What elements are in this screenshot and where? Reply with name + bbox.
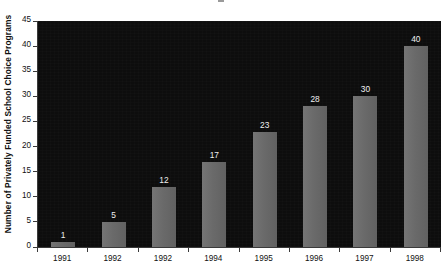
x-axis-tick-mark: [289, 248, 290, 252]
bar-value-label: 28: [310, 94, 319, 104]
y-axis-tick-label: 40: [22, 40, 31, 49]
bar-value-label: 40: [411, 34, 420, 44]
x-axis: 19911992199219941995199619971998: [37, 248, 441, 269]
bar: [51, 242, 75, 247]
bar-value-label: 12: [159, 175, 168, 185]
x-axis-tick-mark: [239, 248, 240, 252]
x-axis-tick-label: 1994: [204, 254, 222, 263]
bar-group: 1: [38, 21, 88, 247]
y-axis-tick-label: 15: [22, 166, 31, 175]
y-axis-tick-label: 45: [22, 15, 31, 24]
y-axis-tick-label: 20: [22, 141, 31, 150]
bar-group: 30: [340, 21, 390, 247]
bar-chart: Number of Privately Funded School Choice…: [0, 0, 447, 269]
x-axis-tick-label: 1992: [103, 254, 121, 263]
bar-group: 5: [88, 21, 138, 247]
y-axis-tick-label: 25: [22, 115, 31, 124]
y-axis-title-text: Number of Privately Funded School Choice…: [3, 14, 13, 233]
bar: [353, 96, 377, 247]
x-axis-tick-label: 1992: [154, 254, 172, 263]
bar-group: 40: [391, 21, 441, 247]
x-axis-tick-mark: [138, 248, 139, 252]
bar: [303, 106, 327, 247]
y-axis: 051015202530354045: [16, 21, 37, 247]
plot-area: 15121723283040: [37, 21, 441, 248]
bar-group: 28: [290, 21, 340, 247]
y-axis-tick-label: 30: [22, 90, 31, 99]
x-axis-tick-mark: [339, 248, 340, 252]
y-axis-title: Number of Privately Funded School Choice…: [0, 0, 16, 247]
x-axis-tick-label: 1996: [305, 254, 323, 263]
x-axis-tick-mark: [37, 248, 38, 252]
bar-value-label: 1: [61, 230, 66, 240]
bar-group: 12: [139, 21, 189, 247]
x-axis-tick-label: 1997: [355, 254, 373, 263]
y-axis-tick-label: 10: [22, 191, 31, 200]
bar: [152, 187, 176, 247]
bar: [102, 222, 126, 247]
y-axis-tick-label: 35: [22, 65, 31, 74]
bar-group: 23: [240, 21, 290, 247]
x-axis-tick-label: 1991: [53, 254, 71, 263]
y-axis-tick-label: 5: [26, 216, 31, 225]
bar-group: 17: [189, 21, 239, 247]
x-axis-tick-mark: [440, 248, 441, 252]
x-axis-tick-mark: [390, 248, 391, 252]
bar-value-label: 30: [361, 84, 370, 94]
top-edge-artifact: [218, 0, 224, 2]
x-axis-tick-label: 1995: [255, 254, 273, 263]
x-axis-tick-label: 1998: [406, 254, 424, 263]
bar-value-label: 23: [260, 120, 269, 130]
bar: [253, 132, 277, 248]
bar-value-label: 17: [210, 150, 219, 160]
bar-value-label: 5: [111, 210, 116, 220]
bar: [404, 46, 428, 247]
y-axis-tick-label: 0: [26, 241, 31, 250]
bar: [202, 162, 226, 247]
x-axis-tick-mark: [87, 248, 88, 252]
x-axis-tick-mark: [188, 248, 189, 252]
